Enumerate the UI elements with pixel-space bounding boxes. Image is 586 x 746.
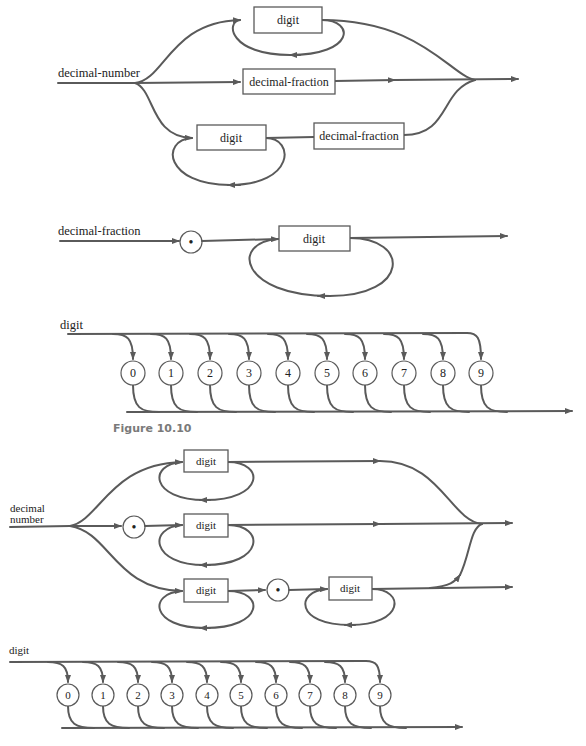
digit-node-label: 8 bbox=[440, 366, 446, 380]
digit-diagram-b: digit 0123456789 bbox=[9, 644, 462, 728]
digit-node-label: 3 bbox=[246, 366, 252, 380]
decimal-point-symbol: • bbox=[276, 583, 281, 598]
decimal-number-diagram-b: decimal number • • digit bbox=[10, 450, 512, 628]
decimal-fraction-label: decimal-fraction bbox=[58, 224, 141, 238]
decimal-fraction-box-label: decimal-fraction bbox=[319, 129, 398, 143]
decimal-fraction-diagram: decimal-fraction • digit bbox=[58, 224, 507, 296]
digit-label: digit bbox=[9, 644, 29, 656]
figure-caption: Figure 10.10 bbox=[113, 422, 192, 435]
decimal-fraction-box-label: decimal-fraction bbox=[249, 75, 328, 89]
digit-label: digit bbox=[60, 318, 83, 332]
digit-node-label: 5 bbox=[324, 366, 330, 380]
digit-node-label: 7 bbox=[307, 689, 313, 701]
digit-node-label: 2 bbox=[207, 366, 213, 380]
syntax-diagram-canvas: decimal-number digit decimal-fraction di… bbox=[0, 0, 586, 746]
digit-node-label: 9 bbox=[478, 366, 484, 380]
digit-box-label: digit bbox=[220, 131, 243, 145]
digit-diagram-a: digit 0123456789 bbox=[60, 318, 572, 412]
digit-node-label: 0 bbox=[130, 366, 136, 380]
digit-node-label: 5 bbox=[238, 689, 244, 701]
digit-node-label: 1 bbox=[100, 689, 106, 701]
decimal-number-diagram-a: decimal-number digit decimal-fraction di… bbox=[58, 7, 518, 185]
digit-node-label: 0 bbox=[65, 689, 71, 701]
digit-node-label: 6 bbox=[273, 689, 279, 701]
digit-box-label: digit bbox=[196, 455, 216, 467]
decimal-number-label: decimal-number bbox=[58, 66, 141, 80]
digit-node-label: 9 bbox=[377, 689, 383, 701]
decimal-number-label-line2: number bbox=[10, 513, 44, 525]
digit-box-label: digit bbox=[196, 584, 216, 596]
digit-node-label: 2 bbox=[135, 689, 141, 701]
digit-node-label: 1 bbox=[168, 366, 174, 380]
digit-node-label: 6 bbox=[362, 366, 368, 380]
digit-node-label: 8 bbox=[342, 689, 348, 701]
decimal-point-symbol: • bbox=[132, 520, 137, 535]
digit-box-label: digit bbox=[340, 582, 360, 594]
digit-node-label: 4 bbox=[204, 689, 210, 701]
digit-node-label: 4 bbox=[285, 366, 291, 380]
digit-box-label: digit bbox=[196, 519, 216, 531]
digit-node-label: 7 bbox=[401, 366, 407, 380]
digit-node-label: 3 bbox=[169, 689, 175, 701]
decimal-point-symbol: • bbox=[189, 235, 194, 250]
digit-box-label: digit bbox=[277, 13, 300, 27]
digit-box-label: digit bbox=[303, 232, 326, 246]
